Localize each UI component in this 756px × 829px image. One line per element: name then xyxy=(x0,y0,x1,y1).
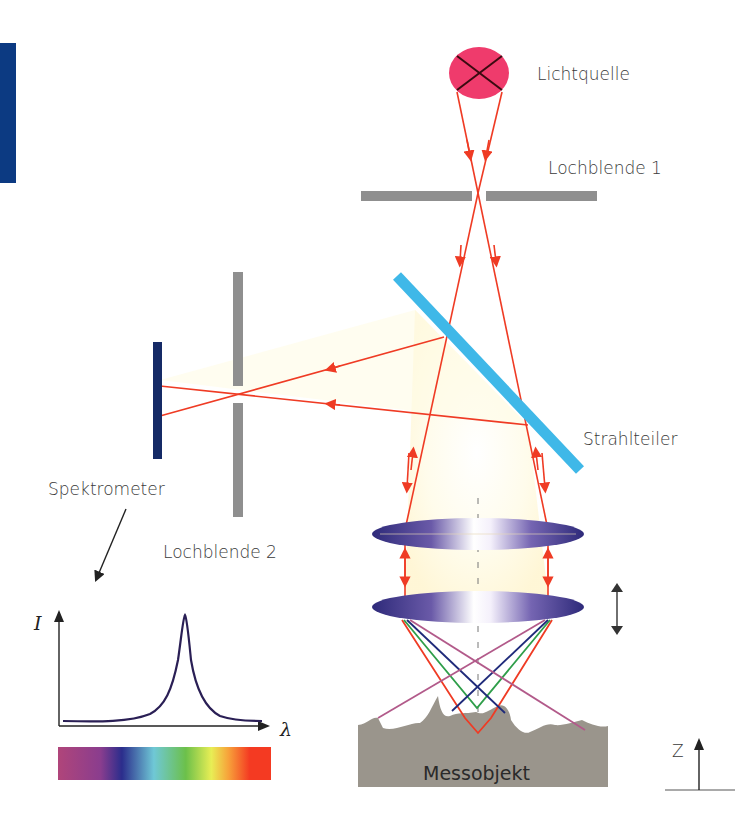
side-bar xyxy=(0,43,16,183)
confocal-diagram: Lichtquelle Lochblende 1 Strahlteiler xyxy=(0,0,756,829)
spectrum-color-bar xyxy=(58,747,271,780)
z-axis-arrow-head-icon xyxy=(694,738,704,750)
source-rays xyxy=(457,92,502,193)
spectrum-y-label: I xyxy=(33,612,42,634)
spectrum-y-axis-head-icon xyxy=(54,610,64,622)
label-spectrometer: Spektrometer xyxy=(48,479,165,499)
spectrometer-pointer-arrow xyxy=(96,509,126,580)
return-glow xyxy=(160,310,528,425)
spectrum-curve xyxy=(63,615,262,721)
label-light-source: Lichtquelle xyxy=(537,64,630,84)
label-beam-splitter: Strahlteiler xyxy=(583,429,677,449)
light-source xyxy=(449,47,509,99)
label-pinhole-1: Lochblende 1 xyxy=(548,158,662,178)
lens-move-arrow-down-icon xyxy=(611,626,623,635)
label-z-axis: Z xyxy=(672,741,684,761)
lens-move-arrow-up-icon xyxy=(611,583,623,592)
spectrum-x-label: λ xyxy=(279,718,292,740)
spectrum-x-axis-head-icon xyxy=(258,721,270,731)
spectrum-plot: I λ xyxy=(33,610,292,780)
detector-plate xyxy=(153,342,162,459)
label-object: Messobjekt xyxy=(423,762,530,784)
label-pinhole-2: Lochblende 2 xyxy=(163,542,277,562)
lens-lower xyxy=(372,591,584,623)
